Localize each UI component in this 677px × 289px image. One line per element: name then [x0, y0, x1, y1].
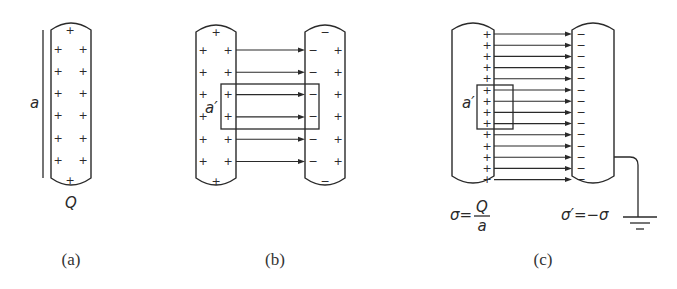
- panel-c-caption: (c): [534, 250, 553, 269]
- panel-b-caption: (b): [265, 250, 285, 269]
- panel-c-gaussian-area-label: a′: [462, 94, 475, 112]
- panel-a-caption: (a): [62, 250, 81, 269]
- panel-c-sigma-denominator: a: [477, 217, 486, 235]
- panel-c-sigma-prime-label: σ′=−σ: [561, 206, 609, 224]
- panel-b-gaussian-area-label: a′: [205, 99, 218, 117]
- panel-a-height-label: a: [30, 94, 39, 112]
- panel-c-sigma-label: σ=: [450, 206, 472, 224]
- panel-a-charge-label: Q: [65, 194, 77, 212]
- panel-c-sigma-numerator: Q: [476, 198, 488, 216]
- label-layer: a Q (a) a′ (b) a′ σ= Q a σ′=−σ (c): [0, 0, 677, 289]
